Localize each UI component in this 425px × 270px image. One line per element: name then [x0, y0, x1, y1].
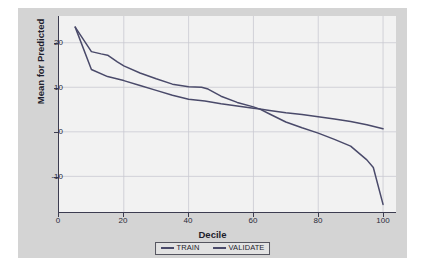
legend-swatch-train [161, 247, 174, 249]
x-tick-label: 100 [376, 217, 389, 225]
x-axis-label: Decile [18, 229, 407, 240]
legend-swatch-validate [213, 247, 226, 249]
y-tick-label: 10 [54, 84, 63, 92]
plot-area [58, 16, 396, 213]
y-axis-label: Mean for Predicted [35, 0, 46, 132]
legend-item-train[interactable]: TRAIN [161, 244, 200, 252]
plot-svg [59, 16, 396, 212]
chart-figure: Mean for Predicted 20100-10 020406080100… [18, 8, 407, 258]
x-tick-label: 60 [249, 217, 258, 225]
legend-item-validate[interactable]: VALIDATE [213, 244, 265, 252]
x-tick-label: 0 [56, 217, 60, 225]
x-tick-label: 80 [314, 217, 323, 225]
series-line-validate [75, 27, 383, 204]
y-tick-label: -10 [51, 173, 63, 181]
x-tick-label: 40 [184, 217, 193, 225]
y-tick-label: 0 [59, 128, 63, 136]
legend-label-train: TRAIN [177, 244, 200, 252]
gridlines [59, 16, 396, 212]
series-lines [75, 27, 383, 204]
chart-legend: TRAIN VALIDATE [155, 242, 271, 255]
legend-label-validate: VALIDATE [229, 244, 265, 252]
y-tick-label: 20 [54, 39, 63, 47]
x-tick-label: 20 [119, 217, 128, 225]
